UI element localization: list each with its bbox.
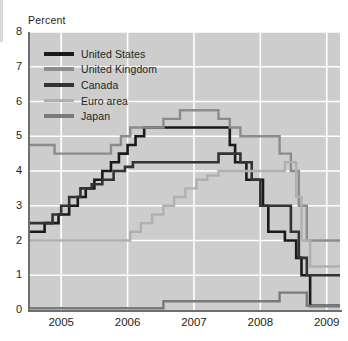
legend-label: Japan [81,110,110,122]
x-tick-label: 2008 [237,316,283,328]
y-tick-label: 7 [4,60,22,72]
legend-swatch-line [44,52,74,56]
legend-label: United States [81,48,145,60]
legend-item: United Kingdom [44,62,157,78]
y-axis-line [28,32,30,312]
y-tick-label: 6 [4,95,22,107]
legend-label: United Kingdom [81,63,157,75]
y-tick-label: 1 [4,268,22,280]
chart-figure: Percent 012345678 20052006200720082009 U… [0,0,348,341]
chart-legend: United StatesUnited KingdomCanadaEuro ar… [44,46,157,124]
legend-swatch-line [44,114,74,118]
y-tick-label: 4 [4,164,22,176]
y-tick-label: 0 [4,303,22,315]
y-tick-label: 2 [4,234,22,246]
legend-item: Euro area [44,93,157,109]
y-axis-title: Percent [28,14,66,26]
page-edge-marker [0,0,3,42]
legend-label: Euro area [81,95,128,107]
y-tick-label: 3 [4,199,22,211]
legend-swatch-line [44,67,74,71]
legend-item: Canada [44,77,157,93]
legend-label: Canada [81,79,118,91]
x-tick-label: 2006 [105,316,151,328]
x-tick-label: 2005 [38,316,84,328]
legend-swatch-line [44,99,74,103]
legend-item: United States [44,46,157,62]
x-tick-label: 2007 [171,316,217,328]
x-tick-label: 2009 [304,316,348,328]
legend-swatch-line [44,83,74,87]
y-tick-label: 5 [4,129,22,141]
legend-item: Japan [44,108,157,124]
y-tick-label: 8 [4,25,22,37]
x-axis-line [28,310,342,312]
